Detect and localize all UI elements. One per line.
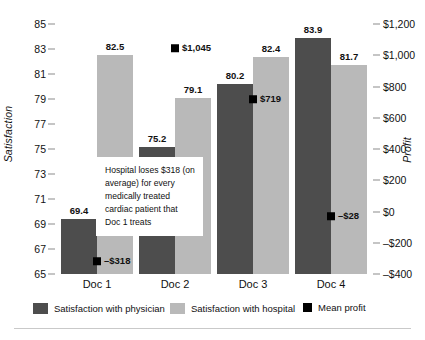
bar-value-physician: 75.2 — [139, 134, 175, 144]
y-tick-mark-left — [48, 224, 55, 225]
bar-value-hospital: 82.4 — [253, 44, 289, 54]
y-tick-mark-left — [48, 74, 55, 75]
y-tick-mark-left — [48, 274, 55, 275]
y-tick-mark-right — [373, 242, 380, 243]
mean-profit-square-icon — [249, 95, 257, 103]
x-axis-label: Doc 2 — [139, 278, 211, 290]
y-tick-label-right: $400 — [383, 144, 406, 155]
y-tick-label-left: 69 — [34, 219, 46, 230]
bar-value-physician: 69.4 — [61, 206, 97, 216]
bar-value-hospital: 81.7 — [331, 52, 367, 62]
y-tick-label-left: 83 — [34, 44, 46, 55]
mean-profit-marker[interactable]: –$318 — [93, 256, 130, 266]
mean-profit-square-icon — [171, 44, 179, 52]
y-axis-title-left: Satisfaction — [2, 99, 14, 169]
x-axis-label: Doc 3 — [217, 278, 289, 290]
y-tick-label-left: 71 — [34, 194, 46, 205]
bar-group: 83.981.7–$28 — [295, 24, 367, 274]
y-tick-mark-left — [48, 99, 55, 100]
footer-divider — [14, 328, 411, 329]
y-tick-label-left: 73 — [34, 169, 46, 180]
y-tick-label-right: –$200 — [383, 238, 412, 249]
y-tick-label-right: $1,200 — [383, 19, 415, 30]
y-tick-label-right: $200 — [383, 175, 406, 186]
y-tick-label-left: 85 — [34, 19, 46, 30]
chart-legend: Satisfaction with physicianSatisfaction … — [0, 301, 425, 319]
chart-figure: Satisfaction Profit 85838179777573716967… — [0, 0, 425, 340]
x-axis-label: Doc 1 — [61, 278, 133, 290]
y-tick-mark-right — [373, 117, 380, 118]
mean-profit-marker[interactable]: –$28 — [327, 211, 359, 221]
y-tick-label-right: $800 — [383, 81, 406, 92]
legend-item[interactable]: Satisfaction with hospital — [170, 303, 295, 314]
y-tick-mark-right — [373, 149, 380, 150]
legend-label: Satisfaction with hospital — [191, 304, 295, 314]
y-tick-label-right: $600 — [383, 113, 406, 124]
bar-satisfaction-physician[interactable] — [295, 38, 331, 274]
y-tick-mark-left — [48, 249, 55, 250]
bar-value-hospital: 82.5 — [97, 42, 133, 52]
y-tick-label-right: $0 — [383, 206, 395, 217]
bar-group: 80.282.4$719 — [217, 24, 289, 274]
y-tick-label-left: 79 — [34, 94, 46, 105]
bar-series-container: 69.482.5–$31875.279.1$1,04580.282.4$7198… — [58, 24, 370, 274]
x-axis-label: Doc 4 — [295, 278, 367, 290]
y-tick-mark-right — [373, 211, 380, 212]
mean-profit-square-icon — [93, 257, 101, 265]
y-tick-label-left: 67 — [34, 244, 46, 255]
y-tick-mark-right — [373, 55, 380, 56]
mean-profit-value: –$318 — [104, 256, 130, 266]
bar-value-physician: 80.2 — [217, 71, 253, 81]
y-tick-mark-left — [48, 49, 55, 50]
y-tick-mark-left — [48, 24, 55, 25]
legend-item[interactable]: Satisfaction with physician — [33, 303, 165, 314]
bar-group: 69.482.5–$318 — [61, 24, 133, 274]
y-tick-label-left: 77 — [34, 119, 46, 130]
y-tick-mark-right — [373, 86, 380, 87]
plot-area: 8583817977757371696765 $1,200$1,000$800$… — [58, 24, 370, 274]
y-tick-label-right: $1,000 — [383, 50, 415, 61]
legend-swatch-icon — [33, 303, 48, 314]
mean-profit-square-icon — [327, 212, 335, 220]
mean-profit-value: –$28 — [338, 211, 359, 221]
legend-swatch-icon — [303, 303, 312, 312]
y-tick-mark-right — [373, 180, 380, 181]
y-tick-mark-left — [48, 174, 55, 175]
bar-group: 75.279.1$1,045 — [139, 24, 211, 274]
y-tick-mark-left — [48, 199, 55, 200]
doc1-profit-callout: Hospital loses $318 (on average) for eve… — [96, 157, 203, 236]
bar-satisfaction-hospital[interactable] — [253, 57, 289, 275]
bar-value-physician: 83.9 — [295, 25, 331, 35]
bar-satisfaction-physician[interactable] — [61, 219, 97, 274]
mean-profit-value: $719 — [260, 94, 281, 104]
y-tick-mark-left — [48, 124, 55, 125]
mean-profit-marker[interactable]: $719 — [249, 94, 281, 104]
bar-satisfaction-physician[interactable] — [217, 84, 253, 274]
bar-value-hospital: 79.1 — [175, 85, 211, 95]
bar-satisfaction-hospital[interactable] — [331, 65, 367, 274]
mean-profit-marker[interactable]: $1,045 — [171, 43, 211, 53]
legend-item[interactable]: Mean profit — [303, 303, 366, 313]
y-tick-mark-left — [48, 149, 55, 150]
y-tick-label-left: 65 — [34, 269, 46, 280]
y-tick-label-right: –$400 — [383, 269, 412, 280]
y-tick-label-left: 75 — [34, 144, 46, 155]
legend-label: Mean profit — [318, 303, 366, 313]
legend-swatch-icon — [170, 303, 185, 314]
y-tick-mark-right — [373, 24, 380, 25]
y-tick-mark-right — [373, 274, 380, 275]
mean-profit-value: $1,045 — [182, 43, 211, 53]
legend-label: Satisfaction with physician — [54, 304, 165, 314]
y-tick-label-left: 81 — [34, 69, 46, 80]
